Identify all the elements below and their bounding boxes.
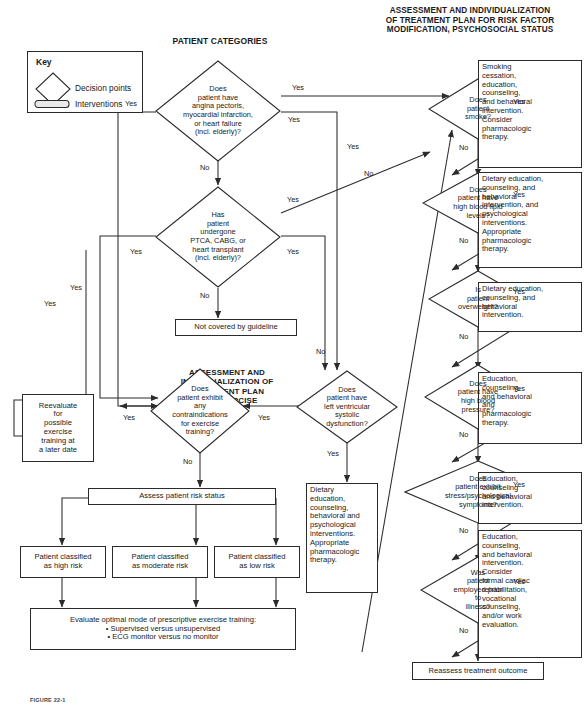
box-assess-risk[interactable]: Assess patient risk status (88, 488, 276, 505)
decision-lipid-label: Does patient have high blood lipid level… (422, 186, 534, 220)
edge-label-lv-no: No (316, 348, 325, 355)
box-evaluate-mode[interactable]: Evaluate optimal mode of prescriptive ex… (30, 608, 296, 650)
decision-ptca-label: Has patient undergone PTCA, CABG, or hea… (155, 211, 281, 262)
box-moderate-risk-label: Patient classified as moderate risk (132, 553, 189, 571)
edge-label-ptca-no: No (200, 292, 209, 299)
key-decision-label: Decision points (75, 83, 131, 93)
edge-label-diag-yes: Yes (347, 143, 359, 150)
key-intervention-label: Interventions (75, 99, 123, 109)
edge-label-angina-yes-right: Yes (288, 116, 300, 123)
box-high-risk[interactable]: Patient classified as high risk (20, 546, 106, 578)
decision-lv-label: Does patient have left ventricular systo… (296, 386, 398, 429)
box-dietary-lv[interactable]: Dietary education, counseling, behaviora… (306, 483, 378, 593)
edge-label-ptca-yes-farleft2: Yes (44, 300, 56, 307)
box-reevaluate-label: Reevaluate for possible exercise trainin… (39, 402, 77, 455)
key-title: Key (36, 57, 52, 67)
edge-label-ptca-yes-right-lower: Yes (287, 248, 299, 255)
edge-label-angina-yes-left: Yes (125, 100, 137, 107)
edge-label-smoke-no: No (459, 144, 468, 151)
figure-caption: FIGURE 22-1 (30, 697, 66, 703)
decision-angina[interactable]: Does patient have angina pectoris, myoca… (155, 60, 281, 162)
edge-label-contra-no: No (183, 458, 192, 465)
edge-label-lipid-no: No (459, 237, 468, 244)
decision-bp-label: Does patient have high blood pressure? (424, 380, 532, 414)
box-not-covered[interactable]: Not covered by guideline (175, 319, 297, 336)
edge-label-diag-no: No (364, 170, 373, 177)
box-dietary-lv-label: Dietary education, counseling, behaviora… (310, 486, 360, 565)
header-risk-factor: ASSESSMENT AND INDIVIDUALIZATION OF TREA… (352, 6, 588, 35)
key-intervention-icon (33, 98, 73, 110)
box-reevaluate[interactable]: Reevaluate for possible exercise trainin… (22, 394, 94, 462)
box-reassess[interactable]: Reassess treatment outcome (412, 662, 544, 680)
decision-employed-label: Was patient employed prior to illness? (420, 569, 536, 612)
edge-label-lv-yes-bottom: Yes (327, 450, 339, 457)
edge-label-ptca-yes-left: Yes (130, 248, 142, 255)
decision-left-ventricular[interactable]: Does patient have left ventricular systo… (296, 370, 398, 444)
decision-smoke-label: Does patient smoke? (428, 96, 528, 122)
edge-label-overweight-no: No (459, 333, 468, 340)
edge-label-ptca-yes-farleft: Yes (70, 284, 82, 291)
box-high-risk-label: Patient classified as high risk (35, 553, 92, 571)
decision-overweight-label: Is patient overweight? (428, 286, 528, 312)
edge-label-angina-yes-top: Yes (292, 84, 304, 91)
edge-label-ptca-yes-right-upper: Yes (287, 196, 299, 203)
decision-contraindications-label: Does patient exhibit any contraindicatio… (150, 385, 250, 436)
box-low-risk-label: Patient classified as low risk (229, 553, 286, 571)
box-moderate-risk[interactable]: Patient classified as moderate risk (112, 546, 208, 578)
edge-label-contra-yes: Yes (123, 414, 135, 421)
edge-label-stress-no: No (459, 527, 468, 534)
edge-label-bp-no: No (459, 431, 468, 438)
box-not-covered-label: Not covered by guideline (194, 323, 278, 332)
edge-label-lv-yes-left: Yes (258, 414, 270, 421)
edge-label-employed-no: No (459, 627, 468, 634)
box-low-risk[interactable]: Patient classified as low risk (214, 546, 300, 578)
decision-angina-label: Does patient have angina pectoris, myoca… (155, 85, 281, 136)
decision-contraindications[interactable]: Does patient exhibit any contraindicatio… (150, 368, 250, 454)
header-patient-categories: PATIENT CATEGORIES (140, 36, 300, 46)
edge-label-angina-no: No (200, 164, 209, 171)
decision-ptca[interactable]: Has patient undergone PTCA, CABG, or hea… (155, 186, 281, 288)
decision-stress-label: Does patient exhibit stress/psychologica… (404, 475, 552, 509)
box-assess-risk-label: Assess patient risk status (139, 492, 225, 501)
box-reassess-label: Reassess treatment outcome (429, 667, 528, 676)
flowchart-figure: PATIENT CATEGORIES ASSESSMENT AND INDIVI… (0, 0, 588, 705)
box-evaluate-mode-label: Evaluate optimal mode of prescriptive ex… (70, 616, 256, 642)
